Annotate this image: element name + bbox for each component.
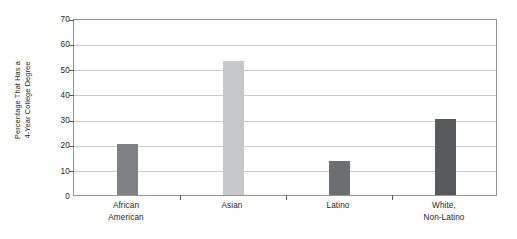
y-axis-tick-mark — [69, 146, 74, 147]
y-axis-tick-label: 50 — [48, 65, 70, 74]
x-axis-category-label: White,Non-Latino — [423, 200, 464, 223]
y-axis-tick-label: 30 — [48, 116, 70, 125]
y-axis-tick-mark — [69, 70, 74, 71]
y-axis-tick-mark — [69, 20, 74, 21]
y-axis-tick-mark — [69, 95, 74, 96]
x-axis-category-label-line1: White, — [432, 201, 456, 210]
gridline — [74, 95, 496, 96]
x-axis-category-label-line2: Non-Latino — [423, 212, 464, 224]
y-axis-tick-mark — [69, 171, 74, 172]
y-axis-title-line1: Percentage That Has a — [13, 61, 22, 139]
bar — [329, 161, 350, 195]
gridline — [74, 121, 496, 122]
x-axis-category-label: AfricanAmerican — [108, 200, 143, 223]
bar — [117, 144, 138, 195]
y-axis-tick-mark — [69, 45, 74, 46]
y-axis-tick-label: 40 — [48, 90, 70, 99]
y-axis-tick-label: 60 — [48, 40, 70, 49]
bar — [223, 61, 244, 195]
x-axis-category-label-line2: American — [108, 212, 143, 224]
x-axis-tick-labels: AfricanAmericanAsianLatinoWhite,Non-Lati… — [73, 200, 497, 239]
y-axis-title-line2: 4-Year College Degree — [23, 61, 33, 139]
bar — [435, 119, 456, 195]
x-axis-category-label-line1: Latino — [327, 201, 350, 210]
y-axis-tick-labels: 010203040506070 — [45, 0, 70, 239]
y-axis-tick-label: 10 — [48, 166, 70, 175]
y-axis-tick-label: 20 — [48, 141, 70, 150]
y-axis-tick-label: 70 — [48, 15, 70, 24]
gridline — [74, 70, 496, 71]
x-axis-category-label: Asian — [222, 200, 243, 212]
x-axis-category-label-line1: African — [113, 201, 139, 210]
plot-inner — [74, 20, 496, 195]
gridline — [74, 45, 496, 46]
plot-area — [73, 19, 497, 196]
x-axis-category-label-line1: Asian — [222, 201, 243, 210]
bar-chart-figure: Percentage That Has a 4-Year College Deg… — [0, 0, 517, 239]
y-axis-title: Percentage That Has a 4-Year College Deg… — [13, 61, 33, 139]
y-axis-title-container: Percentage That Has a 4-Year College Deg… — [0, 0, 46, 200]
y-axis-tick-label: 0 — [48, 192, 70, 201]
y-axis-tick-mark — [69, 121, 74, 122]
x-axis-category-label: Latino — [327, 200, 350, 212]
